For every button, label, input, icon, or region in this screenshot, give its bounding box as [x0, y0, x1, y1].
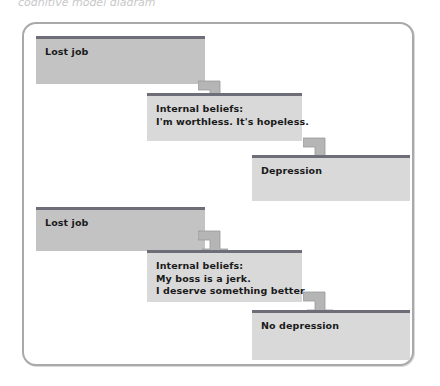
- figure-frame: Lost job Internal beliefs: I'm worthless…: [22, 22, 414, 366]
- flow-box-beliefs-1-line-2: I'm worthless. It's hopeless.: [156, 116, 302, 129]
- cropped-caption-sliver: cognitive model diagram: [18, 0, 178, 6]
- flow-box-beliefs-1: Internal beliefs: I'm worthless. It's ho…: [147, 93, 302, 141]
- flow-box-event-1: Lost job: [36, 36, 205, 84]
- flow-box-outcome-2: No depression: [252, 310, 410, 360]
- flow-box-event-2-line-1: Lost job: [45, 217, 205, 230]
- flow-box-outcome-1-line-1: Depression: [261, 165, 410, 178]
- flow-box-event-2: Lost job: [36, 207, 205, 251]
- flow-box-beliefs-2-line-2: My boss is a jerk.: [156, 273, 302, 286]
- flow-box-beliefs-2-line-3: I deserve something better.: [156, 285, 302, 298]
- flow-box-beliefs-1-line-1: Internal beliefs:: [156, 103, 302, 116]
- flow-box-outcome-1: Depression: [252, 155, 410, 201]
- flow-box-beliefs-2: Internal beliefs: My boss is a jerk. I d…: [147, 250, 302, 302]
- flow-box-beliefs-2-line-1: Internal beliefs:: [156, 260, 302, 273]
- flow-box-event-1-line-1: Lost job: [45, 46, 205, 59]
- flow-box-outcome-2-line-1: No depression: [261, 320, 410, 333]
